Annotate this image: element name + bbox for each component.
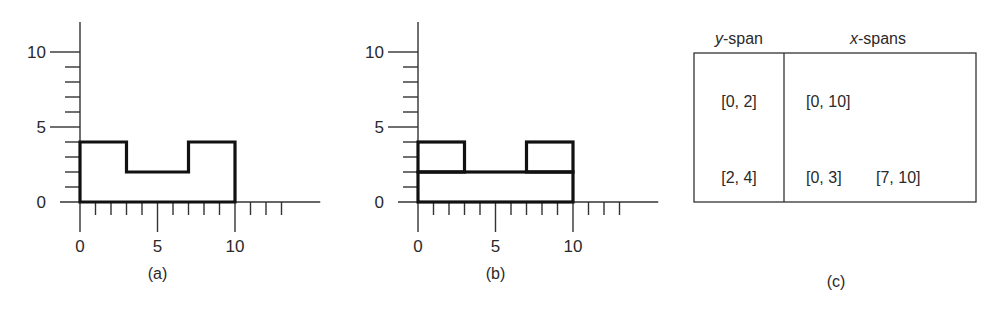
x-tick-label: 0 xyxy=(75,237,84,256)
caption-b: (b) xyxy=(486,265,506,282)
span-rectangle xyxy=(418,172,573,202)
y-tick-label: 0 xyxy=(37,193,46,212)
x-tick-label: 5 xyxy=(491,237,500,256)
y-tick-label: 0 xyxy=(375,193,384,212)
y-tick-label: 10 xyxy=(365,43,384,62)
span-rectangle xyxy=(418,142,465,172)
header-x-spans: x-spans xyxy=(849,30,906,47)
row-0-x-span-0: [0, 10] xyxy=(806,93,850,110)
row-1-x-span-0: [0, 3] xyxy=(806,169,842,186)
span-rectangle xyxy=(527,142,574,172)
header-y-span: y-span xyxy=(714,30,763,47)
figure: 00551010(a) 00551010(b) y-span x-spans [… xyxy=(0,0,994,309)
y-tick-label: 5 xyxy=(37,118,46,137)
shape-outline xyxy=(80,142,235,202)
caption-c: (c) xyxy=(827,273,846,290)
y-tick-label: 10 xyxy=(27,43,46,62)
row-1-y-span: [2, 4] xyxy=(721,169,757,186)
x-tick-label: 5 xyxy=(153,237,162,256)
x-tick-label: 0 xyxy=(413,237,422,256)
x-tick-label: 10 xyxy=(226,237,245,256)
panel-a: 00551010(a) xyxy=(27,22,320,282)
x-tick-label: 10 xyxy=(564,237,583,256)
panel-c: y-span x-spans [0, 2] [0, 10] [2, 4] [0,… xyxy=(694,30,976,290)
row-0-y-span: [0, 2] xyxy=(721,93,757,110)
panel-b: 00551010(b) xyxy=(365,22,658,282)
row-1-x-span-1: [7, 10] xyxy=(876,169,920,186)
caption-a: (a) xyxy=(148,265,168,282)
y-tick-label: 5 xyxy=(375,118,384,137)
